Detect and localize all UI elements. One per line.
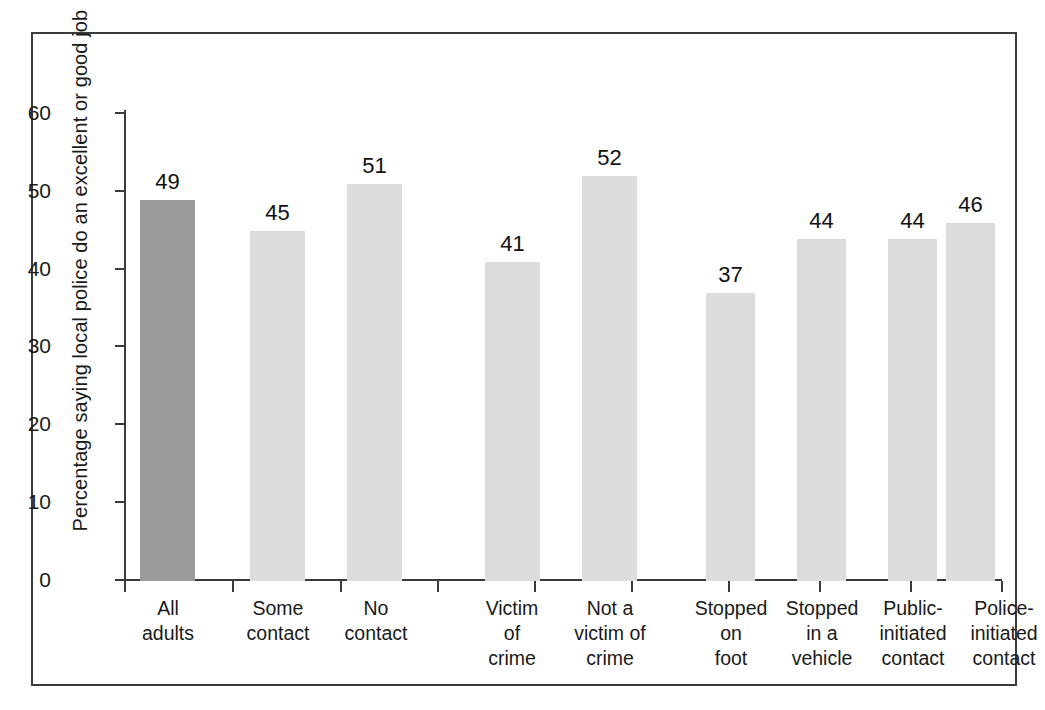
x-tick-3 — [437, 581, 439, 592]
category-label-line1: Police- — [958, 596, 1045, 621]
category-label-no-contact: No contact — [327, 596, 425, 646]
category-label-line2: of — [465, 621, 559, 646]
category-label-line3: vehicle — [776, 646, 868, 671]
category-label-all-adults: All adults — [121, 596, 215, 646]
category-label-line1: Not a — [560, 596, 660, 621]
category-label-line1: Victim — [465, 596, 559, 621]
x-tick-1 — [232, 581, 234, 592]
y-tick-20 — [115, 423, 124, 425]
y-tick-30 — [115, 345, 124, 347]
bar-no-contact[interactable] — [347, 184, 402, 581]
category-label-line2: contact — [229, 621, 327, 646]
y-tick-label-20: 20 — [0, 413, 51, 434]
bar-value-no-contact: 51 — [347, 155, 402, 177]
bar-chart-plot-area: Percentage saying local police do an exc… — [33, 34, 1019, 688]
y-axis-line — [124, 110, 126, 581]
category-label-not-a-victim-of-crime: Not a victim of crime — [560, 596, 660, 671]
y-tick-label-30: 30 — [0, 335, 51, 356]
category-label-some-contact: Some contact — [229, 596, 327, 646]
category-label-line3: contact — [958, 646, 1045, 671]
category-label-line1: Some — [229, 596, 327, 621]
bar-public-initiated-contact[interactable] — [888, 239, 937, 581]
category-label-line2: initiated — [867, 621, 959, 646]
y-tick-label-50: 50 — [0, 180, 51, 201]
y-tick-label-10: 10 — [0, 491, 51, 512]
y-tick-0 — [115, 579, 124, 581]
category-label-line1: Stopped — [685, 596, 777, 621]
y-tick-40 — [115, 268, 124, 270]
x-tick-end — [1001, 581, 1003, 592]
x-tick-2 — [340, 581, 342, 592]
category-label-stopped-on-foot: Stopped on foot — [685, 596, 777, 671]
category-label-line2: in a — [776, 621, 868, 646]
category-label-line2: initiated — [958, 621, 1045, 646]
bar-police-initiated-contact[interactable] — [946, 223, 995, 581]
bar-value-victim-of-crime: 41 — [485, 233, 540, 255]
category-label-line2: adults — [121, 621, 215, 646]
x-tick-4 — [534, 581, 536, 592]
y-tick-label-0: 0 — [0, 569, 51, 590]
category-label-line2: victim of — [560, 621, 660, 646]
bar-value-not-a-victim-of-crime: 52 — [582, 147, 637, 169]
bar-value-stopped-on-foot: 37 — [706, 264, 755, 286]
figure-frame: Percentage saying local police do an exc… — [31, 32, 1017, 686]
category-label-line1: All — [121, 596, 215, 621]
bar-victim-of-crime[interactable] — [485, 262, 540, 581]
category-label-line2: contact — [327, 621, 425, 646]
bar-value-some-contact: 45 — [250, 202, 305, 224]
x-tick-8 — [910, 581, 912, 592]
category-label-line1: Public- — [867, 596, 959, 621]
bar-all-adults[interactable] — [140, 200, 195, 581]
x-tick-6 — [728, 581, 730, 592]
category-label-line2: on — [685, 621, 777, 646]
category-label-line3: foot — [685, 646, 777, 671]
category-label-police-initiated-contact: Police- initiated contact — [958, 596, 1045, 671]
category-label-line3: contact — [867, 646, 959, 671]
y-tick-60 — [115, 112, 124, 114]
category-label-stopped-in-a-vehicle: Stopped in a vehicle — [776, 596, 868, 671]
y-tick-label-40: 40 — [0, 258, 51, 279]
bar-stopped-on-foot[interactable] — [706, 293, 755, 581]
y-tick-10 — [115, 501, 124, 503]
bar-some-contact[interactable] — [250, 231, 305, 581]
category-label-line1: No — [327, 596, 425, 621]
bar-value-stopped-in-a-vehicle: 44 — [797, 210, 846, 232]
category-label-victim-of-crime: Victim of crime — [465, 596, 559, 671]
category-label-public-initiated-contact: Public- initiated contact — [867, 596, 959, 671]
x-tick-7 — [819, 581, 821, 592]
category-label-line3: crime — [465, 646, 559, 671]
bar-value-public-initiated-contact: 44 — [888, 210, 937, 232]
category-label-line3: crime — [560, 646, 660, 671]
bar-value-all-adults: 49 — [140, 171, 195, 193]
bar-value-police-initiated-contact: 46 — [946, 194, 995, 216]
y-axis-title: Percentage saying local police do an exc… — [69, 32, 92, 532]
bar-not-a-victim-of-crime[interactable] — [582, 176, 637, 581]
y-tick-label-60: 60 — [0, 102, 51, 123]
category-label-line1: Stopped — [776, 596, 868, 621]
bar-stopped-in-a-vehicle[interactable] — [797, 239, 846, 581]
y-tick-50 — [115, 190, 124, 192]
x-tick-5 — [631, 581, 633, 592]
x-tick-start — [124, 581, 126, 592]
